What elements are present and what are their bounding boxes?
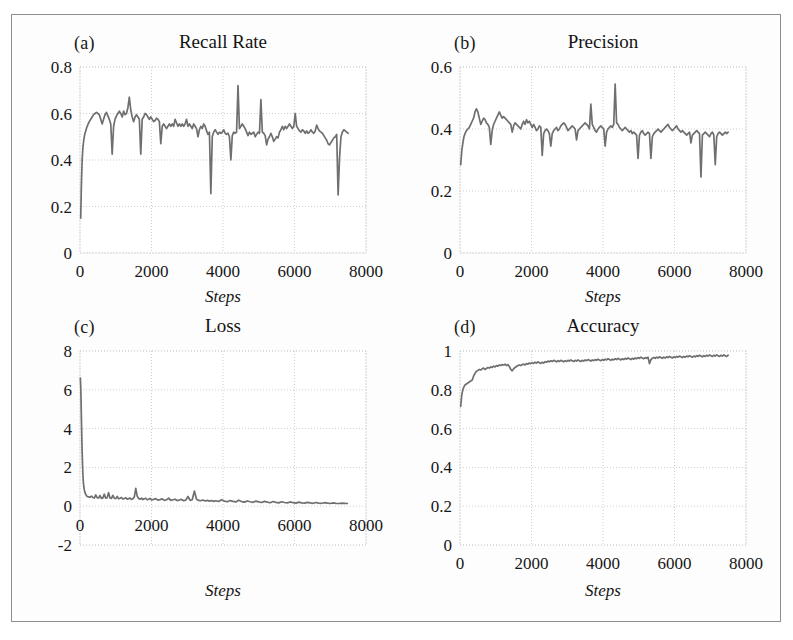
- x-tick-label: 0: [456, 262, 465, 281]
- x-tick-label: 2000: [515, 554, 549, 573]
- y-tick-label: 0: [444, 536, 453, 555]
- y-tick-label: 0.4: [51, 151, 73, 170]
- x-tick-label: 8000: [729, 554, 763, 573]
- x-tick-label: 2000: [135, 516, 169, 535]
- y-tick-label: 8: [64, 342, 73, 361]
- y-tick-label: 0: [64, 497, 73, 516]
- panel-loss: (c)LossSteps-20246802000400060008000: [28, 315, 380, 607]
- x-tick-label: 8000: [349, 262, 383, 281]
- y-tick-label: 1: [444, 342, 453, 361]
- x-tick-label: 4000: [206, 516, 240, 535]
- y-tick-label: 0.6: [51, 105, 72, 124]
- x-tick-label: 0: [76, 262, 85, 281]
- x-tick-label: 2000: [135, 262, 169, 281]
- x-tick-label: 6000: [278, 262, 312, 281]
- y-tick-label: 0.6: [431, 58, 452, 77]
- panel-accuracy: (d)AccuracySteps00.20.40.60.810200040006…: [408, 315, 760, 607]
- plot-precision: 00.20.40.602000400060008000: [408, 31, 760, 313]
- panel-recall-rate: (a)Recall RateSteps00.20.40.60.802000400…: [28, 31, 380, 313]
- x-tick-label: 8000: [729, 262, 763, 281]
- y-tick-label: -2: [58, 536, 72, 555]
- x-tick-label: 0: [456, 554, 465, 573]
- plot-loss: -20246802000400060008000: [28, 315, 380, 607]
- y-tick-label: 0.2: [431, 182, 452, 201]
- y-tick-label: 0.4: [431, 458, 453, 477]
- panel-precision: (b)PrecisionSteps00.20.40.60200040006000…: [408, 31, 760, 313]
- y-tick-label: 2: [64, 458, 73, 477]
- x-tick-label: 6000: [278, 516, 312, 535]
- x-tick-label: 0: [76, 516, 85, 535]
- y-tick-label: 0.2: [51, 198, 72, 217]
- x-tick-label: 8000: [349, 516, 383, 535]
- y-tick-label: 0: [444, 244, 453, 263]
- x-tick-label: 2000: [515, 262, 549, 281]
- x-tick-label: 4000: [586, 262, 620, 281]
- y-tick-label: 0.6: [431, 420, 452, 439]
- y-tick-label: 6: [64, 381, 73, 400]
- x-tick-label: 4000: [586, 554, 620, 573]
- plot-recall-rate: 00.20.40.60.802000400060008000: [28, 31, 380, 313]
- y-tick-label: 0.8: [51, 58, 72, 77]
- y-tick-label: 0.2: [431, 497, 452, 516]
- x-tick-label: 6000: [658, 554, 692, 573]
- figure-frame: (a)Recall RateSteps00.20.40.60.802000400…: [11, 14, 781, 622]
- y-tick-label: 4: [64, 420, 73, 439]
- plot-accuracy: 00.20.40.60.8102000400060008000: [408, 315, 760, 607]
- y-tick-label: 0.4: [431, 120, 453, 139]
- x-tick-label: 6000: [658, 262, 692, 281]
- y-tick-label: 0: [64, 244, 73, 263]
- x-tick-label: 4000: [206, 262, 240, 281]
- y-tick-label: 0.8: [431, 381, 452, 400]
